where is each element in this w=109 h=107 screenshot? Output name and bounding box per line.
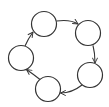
edge-n3-n4	[61, 85, 83, 93]
node-2	[76, 21, 101, 46]
node-3	[78, 63, 103, 88]
edge-n1-n2	[57, 20, 79, 24]
edge-n4-n5	[27, 70, 41, 80]
node-4	[36, 77, 61, 102]
edge-n5-n1	[25, 32, 33, 46]
node-5	[9, 46, 34, 71]
edge-n2-n3	[93, 46, 95, 64]
node-1	[32, 12, 57, 37]
cycle-diagram	[0, 0, 109, 107]
